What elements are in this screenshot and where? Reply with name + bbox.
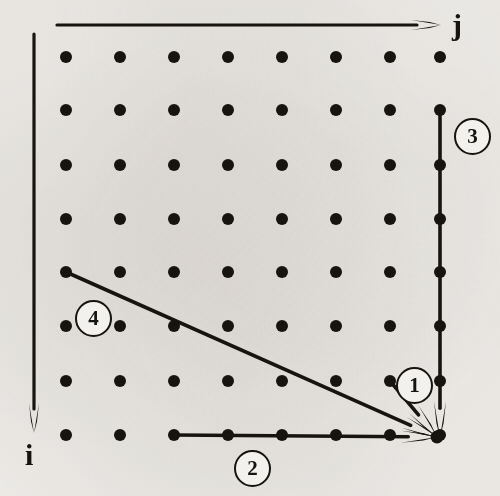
grid-dot <box>276 213 288 225</box>
grid-dot <box>276 375 288 387</box>
grid-dot <box>168 375 180 387</box>
grid-dot <box>384 320 396 332</box>
grid-dot <box>60 213 72 225</box>
grid-dot <box>168 51 180 63</box>
grid-dot <box>168 213 180 225</box>
grid-dot <box>222 375 234 387</box>
grid-dot <box>330 159 342 171</box>
grid-dot <box>276 266 288 278</box>
arrow-2-shaft <box>174 435 408 437</box>
grid-dot <box>114 51 126 63</box>
grid-dot <box>330 213 342 225</box>
grid-dot <box>60 104 72 116</box>
grid-dot <box>222 213 234 225</box>
grid-dot <box>384 104 396 116</box>
grid-dot <box>330 104 342 116</box>
grid-dot <box>114 104 126 116</box>
grid-dot <box>276 104 288 116</box>
grid-dot <box>168 266 180 278</box>
grid-dot <box>60 375 72 387</box>
grid-dot <box>276 51 288 63</box>
grid-dot <box>60 429 72 441</box>
grid-dot <box>114 375 126 387</box>
grid-dot <box>168 104 180 116</box>
grid-dot <box>330 266 342 278</box>
grid-dot <box>384 159 396 171</box>
grid-dot <box>222 320 234 332</box>
grid-dot <box>384 213 396 225</box>
grid-dot <box>330 375 342 387</box>
convergence-node <box>431 431 444 444</box>
callout-number-2: 2 <box>234 450 271 487</box>
grid-dot <box>384 266 396 278</box>
vector-layer <box>0 0 500 496</box>
grid-dot <box>276 320 288 332</box>
grid-dot <box>60 159 72 171</box>
grid-dot <box>222 159 234 171</box>
grid-dot <box>114 213 126 225</box>
grid-dot <box>222 51 234 63</box>
grid-dot <box>276 159 288 171</box>
axis-label-j: j <box>452 10 462 40</box>
grid-dot <box>114 320 126 332</box>
callout-number-4: 4 <box>75 300 112 337</box>
grid-dot-layer <box>60 51 446 441</box>
callout-number-3: 3 <box>454 118 491 155</box>
grid-dot <box>330 320 342 332</box>
grid-dot <box>384 51 396 63</box>
grid-dot <box>434 51 446 63</box>
grid-dot <box>222 104 234 116</box>
callout-number-1: 1 <box>396 367 433 404</box>
figure-canvas: j i 1 2 3 4 <box>0 0 500 496</box>
axis-label-i: i <box>25 440 33 470</box>
grid-dot <box>114 266 126 278</box>
axis-line-layer <box>29 20 441 433</box>
grid-dot <box>222 266 234 278</box>
grid-dot <box>114 159 126 171</box>
grid-dot <box>330 51 342 63</box>
arrow-4-shaft <box>66 272 411 425</box>
grid-dot <box>60 51 72 63</box>
grid-dot <box>60 320 72 332</box>
grid-dot <box>114 429 126 441</box>
grid-dot <box>168 159 180 171</box>
